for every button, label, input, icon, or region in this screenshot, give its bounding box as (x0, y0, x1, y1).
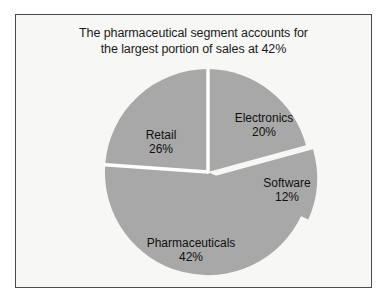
pie-slice-retail[interactable] (105, 69, 208, 172)
slice-label-pharmaceuticals: Pharmaceuticals 42% (147, 236, 236, 264)
slice-label-retail-name: Retail (146, 128, 177, 142)
slice-label-retail: Retail 26% (146, 128, 177, 156)
pie-chart: Electronics 20% Software 12% Pharmaceuti… (16, 15, 371, 287)
slice-label-software-value: 12% (263, 190, 310, 204)
slice-label-electronics: Electronics 20% (235, 111, 294, 139)
slice-label-retail-value: 26% (146, 142, 177, 156)
slice-label-software: Software 12% (263, 176, 310, 204)
chart-frame: The pharmaceutical segment accounts for … (15, 14, 372, 288)
slice-label-software-name: Software (263, 176, 310, 190)
slice-label-pharmaceuticals-name: Pharmaceuticals (147, 236, 236, 250)
slice-label-electronics-name: Electronics (235, 111, 294, 125)
slice-label-electronics-value: 20% (235, 125, 294, 139)
slice-label-pharmaceuticals-value: 42% (147, 250, 236, 264)
